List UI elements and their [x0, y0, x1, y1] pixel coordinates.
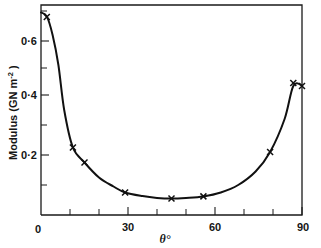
x-axis-title: θ° [159, 232, 170, 246]
y-tick-label-0-2: 0·2 [21, 149, 37, 161]
data-curve [41, 13, 302, 199]
svg-text:θ°: θ° [159, 232, 170, 246]
x-axis-labels: 0 30 60 90 [35, 221, 309, 235]
y-tick-label-0-4: 0·4 [21, 89, 38, 101]
y-axis-title-exponent: -2 [6, 72, 15, 79]
x-axis-title-degree: ° [166, 232, 171, 246]
modulus-vs-theta-chart: 0·6 0·4 0·2 0 30 60 90 [0, 0, 321, 248]
x-tick-label-30: 30 [122, 221, 134, 233]
data-point-markers [44, 14, 305, 202]
y-axis-title-close: ) [7, 65, 19, 72]
y-tick-label-0-6: 0·6 [21, 35, 37, 47]
x-axis-ticks [70, 207, 302, 215]
data-point-marker [267, 149, 273, 155]
x-tick-label-0: 0 [35, 223, 41, 235]
plot-frame [41, 5, 302, 215]
x-tick-label-90: 90 [297, 221, 309, 233]
figure-container: 0·6 0·4 0·2 0 30 60 90 [0, 0, 321, 248]
y-axis-title-main: Modulus (GN m [7, 79, 19, 160]
y-axis-labels: 0·6 0·4 0·2 [21, 35, 38, 161]
y-axis-title: Modulus (GN m-2 ) [6, 65, 19, 160]
svg-text:Modulus (GN m-2 ): Modulus (GN m-2 ) [6, 65, 19, 160]
y-axis-ticks [41, 11, 49, 185]
x-tick-label-60: 60 [209, 221, 221, 233]
data-point-marker [82, 160, 88, 166]
